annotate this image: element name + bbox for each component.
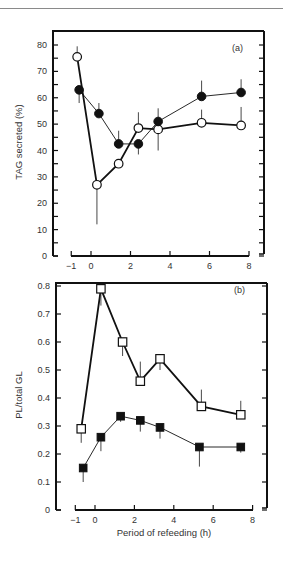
y-tick-label: 0.6 — [37, 337, 50, 347]
data-point-open-circle — [197, 119, 206, 128]
x-tick-label: 6 — [211, 515, 216, 525]
y-tick-label: 0.3 — [37, 421, 50, 431]
data-point-open-square — [77, 425, 85, 433]
data-point-filled-square — [137, 417, 145, 425]
y-tick-label: 70 — [37, 66, 47, 76]
panel-b-label: (b) — [234, 285, 245, 295]
x-tick-label: 6 — [207, 261, 212, 271]
y-tick-label: 0.1 — [37, 477, 50, 487]
x-tick-label: 4 — [167, 261, 172, 271]
data-point-filled-circle — [75, 86, 84, 95]
x-tick-label: 8 — [246, 261, 251, 271]
x-tick-label: 2 — [132, 515, 137, 525]
y-tick-label: 30 — [37, 172, 47, 182]
data-point-filled-square — [117, 412, 125, 420]
data-point-filled-circle — [114, 140, 123, 149]
x-tick-label: 0 — [92, 515, 97, 525]
y-tick-label: 0 — [42, 251, 47, 261]
data-point-open-square — [156, 355, 164, 363]
x-tick-label: 4 — [171, 515, 176, 525]
data-point-filled-square — [97, 433, 105, 441]
y-tick-label: 40 — [37, 146, 47, 156]
data-point-open-circle — [73, 53, 82, 62]
data-point-filled-circle — [134, 140, 143, 149]
y-tick-label: 0.7 — [37, 309, 50, 319]
data-point-open-square — [136, 377, 144, 385]
data-point-open-square — [197, 402, 205, 410]
data-point-filled-circle — [95, 109, 104, 118]
y-tick-label: 0.2 — [37, 449, 50, 459]
data-point-open-square — [97, 285, 105, 293]
data-point-filled-circle — [154, 117, 163, 126]
caption-fragment — [20, 548, 270, 556]
y-tick-label: 60 — [37, 93, 47, 103]
x-tick-label: −1 — [70, 515, 80, 525]
y-tick-label: 0 — [45, 505, 50, 515]
data-point-filled-circle — [237, 88, 246, 97]
x-tick-label: −1 — [66, 261, 76, 271]
x-tick-label: 8 — [250, 515, 255, 525]
y-tick-label: 20 — [37, 198, 47, 208]
data-point-filled-square — [237, 443, 245, 451]
data-point-filled-square — [196, 443, 204, 451]
data-point-open-circle — [93, 180, 102, 189]
y-tick-label: 50 — [37, 119, 47, 129]
panel-b-chart: 00.10.20.30.40.50.60.70.8−102468 — [37, 281, 267, 525]
data-point-open-circle — [114, 159, 123, 168]
y-tick-label: 0.4 — [37, 393, 50, 403]
data-point-open-circle — [134, 124, 143, 133]
data-point-open-square — [118, 338, 126, 346]
data-point-filled-square — [156, 424, 164, 432]
data-point-filled-square — [79, 464, 87, 472]
y-axis-title-a: TAG secreted (%) — [13, 104, 24, 179]
y-tick-label: 10 — [37, 225, 47, 235]
data-point-open-circle — [237, 121, 246, 130]
x-tick-label: 0 — [88, 261, 93, 271]
x-tick-label: 2 — [128, 261, 133, 271]
figure: 01020304050607080−102468 00.10.20.30.40.… — [0, 0, 283, 563]
y-tick-label: 0.5 — [37, 365, 50, 375]
panel-a-label: (a) — [232, 43, 243, 53]
x-axis-title: Period of refeeding (h) — [117, 527, 212, 538]
data-point-filled-circle — [197, 92, 206, 101]
series-line — [79, 90, 241, 144]
y-tick-label: 80 — [37, 40, 47, 50]
data-point-open-square — [237, 411, 245, 419]
data-point-open-circle — [154, 125, 163, 134]
panel-a-chart: 01020304050607080−102468 — [37, 31, 264, 271]
y-axis-title-b: PL/total GL — [13, 371, 24, 419]
y-tick-label: 0.8 — [37, 281, 50, 291]
